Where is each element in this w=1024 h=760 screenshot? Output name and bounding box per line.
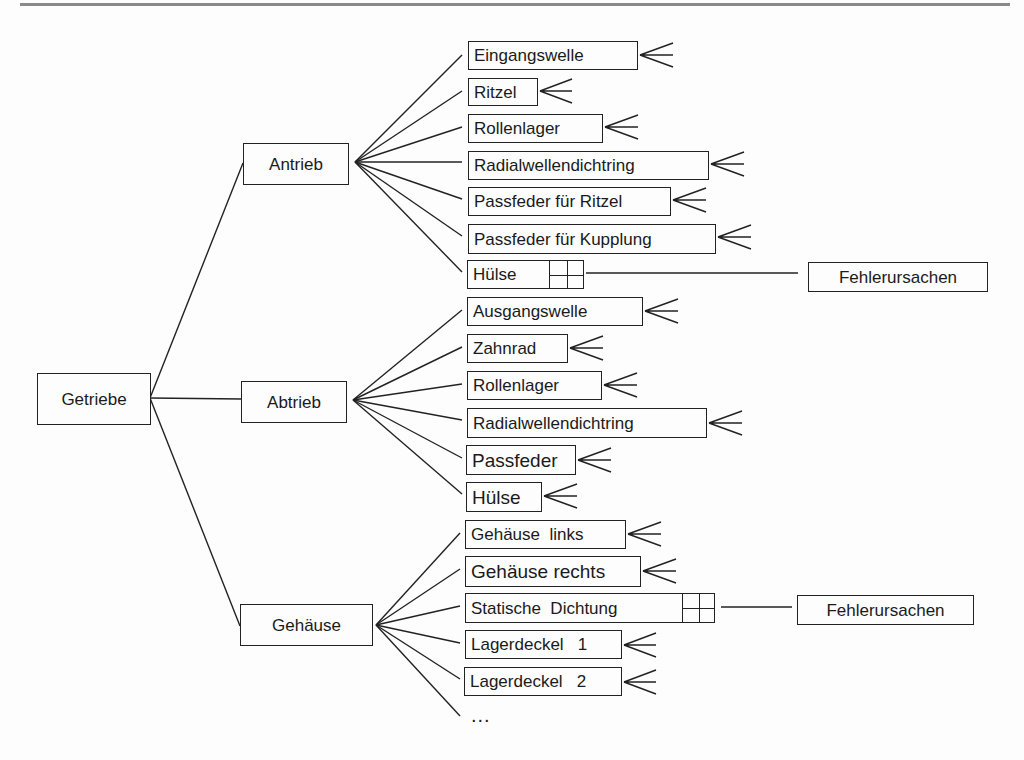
part-node[interactable]: Passfeder für Kupplung	[468, 224, 716, 254]
part-node[interactable]: Lagerdeckel 2	[464, 667, 622, 696]
part-node[interactable]: Zahnrad	[467, 334, 568, 363]
part-node-expanded[interactable]: Hülse	[467, 260, 584, 289]
part-node-expanded[interactable]: Statische Dichtung	[465, 593, 715, 623]
detail-node-fehlerursachen[interactable]: Fehlerursachen	[797, 595, 974, 625]
more-items-ellipsis: ...	[471, 704, 491, 727]
detail-node-fehlerursachen[interactable]: Fehlerursachen	[808, 262, 988, 292]
part-node[interactable]: Gehäuse links	[465, 520, 626, 549]
part-node[interactable]: Passfeder	[466, 445, 576, 475]
part-node[interactable]: Gehäuse rechts	[465, 556, 641, 587]
group-label: Antrieb	[269, 156, 323, 173]
group-node-gehaeuse[interactable]: Gehäuse	[240, 604, 373, 646]
grid-icon[interactable]	[682, 594, 714, 622]
part-node[interactable]: Radialwellendichtring	[467, 408, 707, 438]
part-node[interactable]: Eingangswelle	[468, 41, 638, 70]
group-label: Abtrieb	[267, 394, 321, 411]
group-node-antrieb[interactable]: Antrieb	[243, 143, 349, 185]
part-node[interactable]: Radialwellendichtring	[468, 151, 709, 180]
part-node[interactable]: Lagerdeckel 1	[465, 630, 622, 659]
part-node[interactable]: Ritzel	[468, 78, 538, 106]
group-label: Gehäuse	[272, 617, 341, 634]
part-node[interactable]: Rollenlager	[468, 114, 603, 143]
part-node[interactable]: Hülse	[466, 482, 542, 512]
group-node-abtrieb[interactable]: Abtrieb	[241, 381, 347, 423]
part-node[interactable]: Ausgangswelle	[467, 297, 643, 326]
part-node[interactable]: Passfeder für Ritzel	[468, 187, 671, 216]
root-node-getriebe[interactable]: Getriebe	[37, 373, 151, 425]
part-node[interactable]: Rollenlager	[467, 371, 602, 400]
root-node-label: Getriebe	[61, 391, 126, 408]
grid-icon[interactable]	[549, 261, 583, 288]
